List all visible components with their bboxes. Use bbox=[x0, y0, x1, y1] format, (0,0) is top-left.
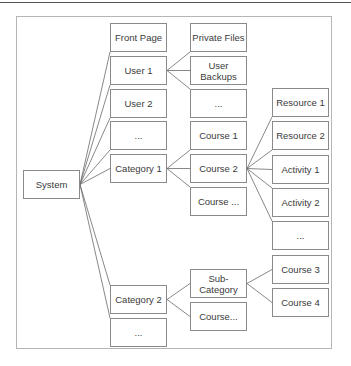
edge-category-2-to-course-more-2 bbox=[167, 300, 190, 317]
edge-course-2-to-resource-1 bbox=[247, 117, 272, 169]
node-resource-2: Resource 2 bbox=[272, 121, 329, 150]
node-categories-more: ... bbox=[110, 318, 167, 347]
node-activity-1: Activity 1 bbox=[272, 155, 329, 184]
edge-system-to-users-more bbox=[80, 150, 110, 185]
node-system: System bbox=[23, 170, 80, 199]
node-sub-category: Sub- Category bbox=[190, 269, 247, 298]
node-course-more-2: Course... bbox=[190, 302, 247, 331]
edge-user-1-to-private-files bbox=[167, 52, 190, 71]
edge-system-to-front-page bbox=[80, 52, 110, 185]
edge-course-2-to-activity-1 bbox=[247, 169, 272, 170]
edge-system-to-user-2 bbox=[80, 118, 110, 185]
node-activities-more: ... bbox=[272, 221, 329, 250]
edge-sub-category-to-course-4 bbox=[247, 284, 272, 303]
edge-category-1-to-course-1 bbox=[167, 150, 190, 169]
node-user-2: User 2 bbox=[110, 89, 167, 118]
node-activity-2: Activity 2 bbox=[272, 188, 329, 217]
edge-user-1-to-user-items-more bbox=[167, 71, 190, 90]
node-course-1: Course 1 bbox=[190, 121, 247, 150]
edge-course-2-to-activity-2 bbox=[247, 169, 272, 189]
node-resource-1: Resource 1 bbox=[272, 88, 329, 117]
edge-system-to-category-2 bbox=[80, 185, 110, 286]
node-private-files: Private Files bbox=[190, 23, 247, 52]
edge-course-2-to-resource-2 bbox=[247, 150, 272, 169]
node-course-more-1: Course ... bbox=[190, 187, 247, 216]
node-front-page: Front Page bbox=[110, 23, 167, 52]
edge-category-1-to-course-more-1 bbox=[167, 169, 190, 188]
node-course-2: Course 2 bbox=[190, 154, 247, 183]
node-course-4: Course 4 bbox=[272, 288, 329, 317]
edge-category-2-to-sub-category bbox=[167, 284, 190, 300]
edge-sub-category-to-course-3 bbox=[247, 270, 272, 284]
node-user-backups: User Backups bbox=[190, 56, 247, 85]
edge-system-to-user-1 bbox=[80, 85, 110, 185]
node-user-items-more: ... bbox=[190, 89, 247, 118]
edge-course-2-to-activities-more bbox=[247, 169, 272, 222]
node-category-2: Category 2 bbox=[110, 285, 167, 314]
node-category-1: Category 1 bbox=[110, 154, 167, 183]
node-course-3: Course 3 bbox=[272, 255, 329, 284]
node-users-more: ... bbox=[110, 121, 167, 150]
node-user-1: User 1 bbox=[110, 56, 167, 85]
edge-system-to-categories-more bbox=[80, 185, 110, 319]
